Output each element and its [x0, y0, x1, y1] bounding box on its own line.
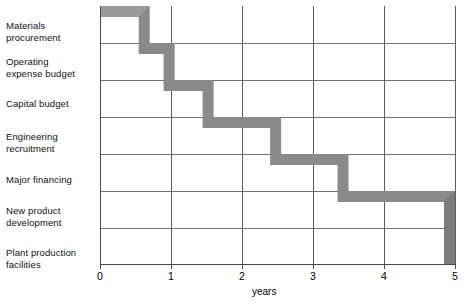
x-tick-label-2: 2	[239, 270, 245, 282]
plot-area: 0 1 2 3 4 5	[100, 6, 455, 265]
x-tick-label-3: 3	[310, 270, 316, 282]
row-label-major-financing: Major financing	[6, 174, 98, 186]
row-label-engineering-recruitment: Engineering recruitment	[6, 131, 98, 154]
row-label-capital-budget: Capital budget	[6, 98, 98, 110]
staircase-band	[100, 6, 455, 265]
x-axis-line	[100, 264, 456, 265]
tick-mark-3	[313, 265, 314, 269]
staircase-chart: Materials procurement Operating expense …	[0, 0, 469, 307]
row-label-materials-procurement: Materials procurement	[6, 20, 98, 43]
tick-mark-0	[100, 265, 101, 269]
x-axis-label: years	[252, 286, 276, 297]
x-tick-label-0: 0	[97, 270, 103, 282]
row-label-new-product-development: New product development	[6, 205, 98, 228]
row-label-operating-expense-budget: Operating expense budget	[6, 56, 98, 79]
row-label-plant-production-facilities: Plant production facilities	[6, 247, 98, 270]
x-tick-label-4: 4	[381, 270, 387, 282]
tick-mark-2	[242, 265, 243, 269]
tick-mark-4	[384, 265, 385, 269]
y-axis-line	[100, 6, 101, 265]
x-tick-label-5: 5	[452, 270, 458, 282]
tick-mark-5	[455, 265, 456, 269]
gridline-v-5	[455, 6, 456, 265]
tick-mark-1	[171, 265, 172, 269]
x-tick-label-1: 1	[168, 270, 174, 282]
